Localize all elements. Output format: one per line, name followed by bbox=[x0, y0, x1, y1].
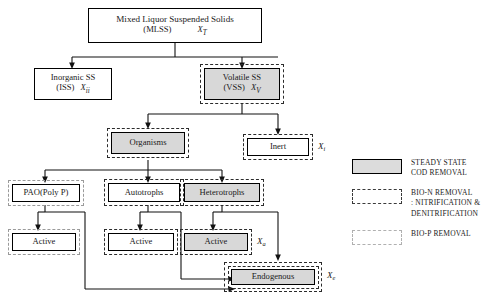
endogenous-variable: Xe bbox=[327, 270, 335, 280]
node-heterotroph-active: Active bbox=[180, 229, 252, 255]
iss-line2: (ISS) bbox=[56, 83, 74, 93]
heterotroph-active-label: Active bbox=[205, 237, 228, 247]
mlss-fractionation-diagram: Mixed Liquor Suspended Solids (MLSS) XT … bbox=[0, 0, 492, 303]
legend-item-bio-p: BIO-P REMOVAL bbox=[352, 229, 492, 245]
organisms-label: Organisms bbox=[129, 138, 166, 148]
vss-line2: (VSS) bbox=[223, 83, 245, 93]
mlss-variable: XT bbox=[197, 25, 206, 37]
node-autotrophs: Autotrophs bbox=[104, 179, 184, 206]
endogenous-outer-outline: Endogenous bbox=[224, 262, 322, 292]
pao-active-label: Active bbox=[33, 237, 56, 247]
node-endogenous: Endogenous bbox=[224, 262, 322, 292]
autotroph-active-label: Active bbox=[130, 237, 153, 247]
pao-label: PAO(Poly P) bbox=[24, 188, 69, 198]
legend-item-steady-state: STEADY STATE COD REMOVAL bbox=[352, 158, 492, 178]
heterotroph-active-bio-n-outline: Active bbox=[180, 229, 252, 255]
heterotroph-active-variable: Xa bbox=[257, 236, 266, 246]
vss-line1: Volatile SS bbox=[223, 73, 261, 83]
heterotrophs-label: Heterotrophs bbox=[200, 188, 245, 198]
autotrophs-bio-n-outline: Autotrophs bbox=[104, 179, 184, 206]
node-autotroph-active: Active bbox=[104, 229, 178, 255]
node-pao-active: Active bbox=[8, 229, 80, 255]
mlss-line1: Mixed Liquor Suspended Solids bbox=[116, 14, 233, 24]
node-mlss: Mixed Liquor Suspended Solids (MLSS) XT bbox=[88, 8, 262, 43]
autotroph-active-bio-n-outline: Active bbox=[104, 229, 178, 255]
node-volatile-ss: Volatile SS (VSS) XV bbox=[200, 64, 284, 104]
steady-state-swatch bbox=[352, 159, 402, 174]
pao-bio-p-outline: PAO(Poly P) bbox=[8, 180, 84, 206]
legend-item-bio-n: BIO-N REMOVAL : NITRIFICATION & DENITRIF… bbox=[352, 188, 492, 218]
node-heterotrophs: Heterotrophs bbox=[180, 179, 264, 206]
legend-label-steady-state: STEADY STATE COD REMOVAL bbox=[411, 158, 467, 178]
pao-active-bio-p-outline: Active bbox=[8, 229, 80, 255]
legend: STEADY STATE COD REMOVAL BIO-N REMOVAL :… bbox=[352, 158, 492, 255]
node-organisms: Organisms bbox=[107, 128, 189, 158]
iss-variable: Xii bbox=[80, 83, 89, 95]
endogenous-inner-outline: Endogenous bbox=[228, 266, 319, 289]
endogenous-label: Endogenous bbox=[252, 272, 295, 282]
node-pao: PAO(Poly P) bbox=[8, 180, 84, 206]
autotrophs-label: Autotrophs bbox=[125, 188, 164, 198]
bio-p-swatch bbox=[352, 230, 402, 245]
legend-label-bio-n: BIO-N REMOVAL : NITRIFICATION & DENITRIF… bbox=[411, 188, 480, 218]
heterotrophs-bio-n-outline: Heterotrophs bbox=[180, 179, 264, 206]
inert-bio-n-outline: Inert bbox=[243, 134, 313, 160]
vss-variable: XV bbox=[251, 83, 261, 95]
node-inert: Inert bbox=[243, 134, 313, 160]
legend-label-bio-p: BIO-P REMOVAL bbox=[411, 229, 471, 239]
inert-label: Inert bbox=[270, 142, 286, 152]
inert-variable: Xi bbox=[318, 141, 325, 151]
node-inorganic-ss: Inorganic SS (ISS) Xii bbox=[34, 68, 112, 100]
mlss-line2: (MLSS) bbox=[143, 25, 171, 35]
bio-n-swatch bbox=[352, 189, 402, 204]
organisms-bio-n-outline: Organisms bbox=[107, 128, 189, 158]
volatile-ss-bio-n-outline: Volatile SS (VSS) XV bbox=[200, 64, 284, 104]
iss-line1: Inorganic SS bbox=[51, 73, 95, 83]
